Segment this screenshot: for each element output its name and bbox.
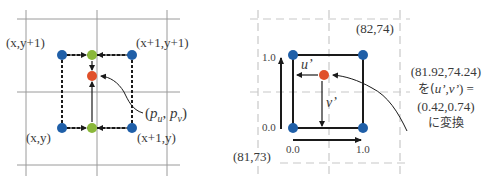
u-prime-label: u’ bbox=[301, 58, 313, 72]
target-point bbox=[87, 71, 97, 81]
v-prime-label: v’ bbox=[326, 96, 337, 110]
label-corner-81-73: (81,73) bbox=[233, 150, 271, 164]
note-line-source-coord: (81.92,74.24) bbox=[405, 63, 487, 80]
note-line-uv: を(u’,v’) = bbox=[405, 80, 487, 98]
label-bottom-left-corner: (x,y) bbox=[26, 131, 51, 145]
corner-point-top-right bbox=[127, 50, 137, 60]
v-tick-bottom: 0.0 bbox=[262, 121, 276, 133]
corner-point-bottom-right bbox=[358, 123, 368, 133]
right-pointer-curve bbox=[333, 75, 407, 131]
paren-close: ) bbox=[182, 105, 187, 121]
note-prefix: を( bbox=[418, 82, 435, 96]
label-top-right-corner: (x+1,y+1) bbox=[136, 36, 189, 50]
corner-point-bottom-right bbox=[127, 123, 137, 133]
corner-point-bottom-left bbox=[57, 123, 67, 133]
interp-point-bottom bbox=[87, 123, 97, 133]
note-line-convert: に変換 bbox=[405, 115, 487, 132]
corner-point-bottom-left bbox=[288, 123, 298, 133]
conversion-note: (81.92,74.24) を(u’,v’) = (0.42,0.74) に変換 bbox=[405, 63, 487, 132]
left-pointer-curve bbox=[101, 76, 143, 113]
label-corner-82-74: (82,74) bbox=[356, 22, 394, 36]
note-suffix: ) = bbox=[459, 81, 474, 96]
note-line-result: (0.42,0.74) bbox=[405, 98, 487, 115]
target-point bbox=[319, 70, 329, 80]
corner-point-top-left bbox=[57, 50, 67, 60]
label-top-left-corner: (x,y+1) bbox=[6, 36, 45, 50]
pv-base: p bbox=[170, 105, 178, 121]
separator: , bbox=[163, 105, 171, 121]
label-bottom-right-corner: (x+1,y) bbox=[137, 131, 176, 145]
label-target-point: (pu, pv) bbox=[145, 105, 187, 127]
corner-point-top-right bbox=[358, 50, 368, 60]
corner-point-top-left bbox=[288, 50, 298, 60]
pu-base: p bbox=[150, 105, 158, 121]
u-tick-right: 1.0 bbox=[356, 143, 370, 155]
v-tick-top: 1.0 bbox=[262, 51, 276, 63]
note-uv-vars: u’,v’ bbox=[435, 81, 459, 96]
u-tick-left: 0.0 bbox=[286, 143, 300, 155]
interp-point-top bbox=[87, 50, 97, 60]
